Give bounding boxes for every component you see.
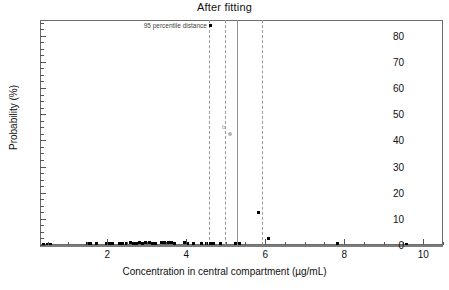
y-axis-minor-tick: [40, 81, 44, 82]
y-axis-tick-label: 70: [393, 56, 404, 67]
vertical-reference-line-2: [225, 20, 226, 245]
y-axis-minor-tick: [40, 121, 44, 122]
x-axis-minor-tick: [127, 242, 128, 246]
y-axis-major-tick: [40, 114, 46, 115]
x-axis-tick-label: 10: [418, 249, 429, 260]
y-axis-tick-label: 60: [393, 83, 404, 94]
y-axis-minor-tick: [40, 238, 44, 239]
x-axis-major-tick: [344, 239, 345, 245]
chart-root: After fitting 95 percentile distanceb 24…: [0, 0, 449, 290]
x-axis-minor-tick: [245, 242, 246, 246]
chart-title: After fitting: [0, 1, 449, 13]
vertical-reference-line-3: [237, 20, 238, 245]
x-axis-minor-tick: [443, 242, 444, 246]
data-point: [267, 237, 270, 240]
data-point: [257, 211, 260, 214]
x-axis-tick-label: 8: [341, 249, 347, 260]
x-axis-tick-label: 4: [183, 249, 189, 260]
y-axis-minor-tick: [40, 42, 44, 43]
y-axis-minor-tick: [40, 95, 44, 96]
y-axis-tick-label: 80: [393, 30, 404, 41]
x-axis-title: Concentration in central compartment (µg…: [0, 266, 449, 277]
x-axis-minor-tick: [324, 242, 325, 246]
y-axis-tick-label: 20: [393, 187, 404, 198]
y-axis-tick-label: 40: [393, 135, 404, 146]
x-axis-minor-tick: [206, 242, 207, 246]
annotation-b-label: b: [222, 124, 225, 130]
y-axis-minor-tick: [40, 127, 44, 128]
y-axis-minor-tick: [40, 225, 44, 226]
x-axis-minor-tick: [364, 242, 365, 246]
y-axis-major-tick: [40, 167, 46, 168]
x-axis-major-tick: [186, 239, 187, 245]
y-axis-tick-label: 30: [393, 161, 404, 172]
y-axis-minor-tick: [40, 49, 44, 50]
y-axis-major-tick: [40, 62, 46, 63]
y-axis-minor-tick: [40, 206, 44, 207]
y-axis-minor-tick: [40, 199, 44, 200]
plot-area: 95 percentile distanceb: [40, 20, 443, 245]
x-axis-minor-tick: [48, 242, 49, 246]
x-axis-baseline: [40, 245, 443, 247]
y-axis-minor-tick: [40, 55, 44, 56]
x-axis-tick-label: 6: [262, 249, 268, 260]
x-axis-minor-tick: [87, 242, 88, 246]
y-axis-minor-tick: [40, 186, 44, 187]
y-axis-minor-tick: [40, 173, 44, 174]
y-axis-minor-tick: [40, 23, 44, 24]
data-point: [209, 24, 212, 27]
y-axis-minor-tick: [40, 212, 44, 213]
x-axis-minor-tick: [68, 242, 69, 246]
data-point: [228, 132, 232, 136]
y-axis-title: Probability (%): [8, 53, 19, 183]
x-axis-minor-tick: [147, 242, 148, 246]
y-axis-minor-tick: [40, 101, 44, 102]
vertical-reference-line-1: [209, 20, 210, 245]
y-axis-major-tick: [40, 245, 46, 246]
y-axis-major-tick: [40, 88, 46, 89]
y-axis-minor-tick: [40, 180, 44, 181]
y-axis-minor-tick: [40, 147, 44, 148]
y-axis-minor-tick: [40, 108, 44, 109]
y-axis-tick-label: 0: [398, 240, 404, 251]
y-axis-major-tick: [40, 140, 46, 141]
y-axis-major-tick: [40, 219, 46, 220]
vertical-reference-line-4: [262, 20, 263, 245]
x-axis-minor-tick: [285, 242, 286, 246]
y-axis-minor-tick: [40, 29, 44, 30]
y-axis-tick-label: 50: [393, 109, 404, 120]
y-axis-minor-tick: [40, 75, 44, 76]
y-axis-minor-tick: [40, 232, 44, 233]
y-axis-minor-tick: [40, 68, 44, 69]
y-axis-minor-tick: [40, 160, 44, 161]
x-axis-minor-tick: [384, 242, 385, 246]
y-axis-minor-tick: [40, 134, 44, 135]
x-axis-tick-label: 2: [104, 249, 110, 260]
x-axis-major-tick: [423, 239, 424, 245]
y-axis-major-tick: [40, 193, 46, 194]
y-axis-major-tick: [40, 36, 46, 37]
x-axis-major-tick: [265, 239, 266, 245]
x-axis-minor-tick: [166, 242, 167, 246]
x-axis-minor-tick: [305, 242, 306, 246]
y-axis-tick-label: 10: [393, 213, 404, 224]
annotation-percentile-distance: 95 percentile distance: [144, 22, 207, 29]
x-axis-minor-tick: [226, 242, 227, 246]
x-axis-major-tick: [107, 239, 108, 245]
y-axis-minor-tick: [40, 153, 44, 154]
